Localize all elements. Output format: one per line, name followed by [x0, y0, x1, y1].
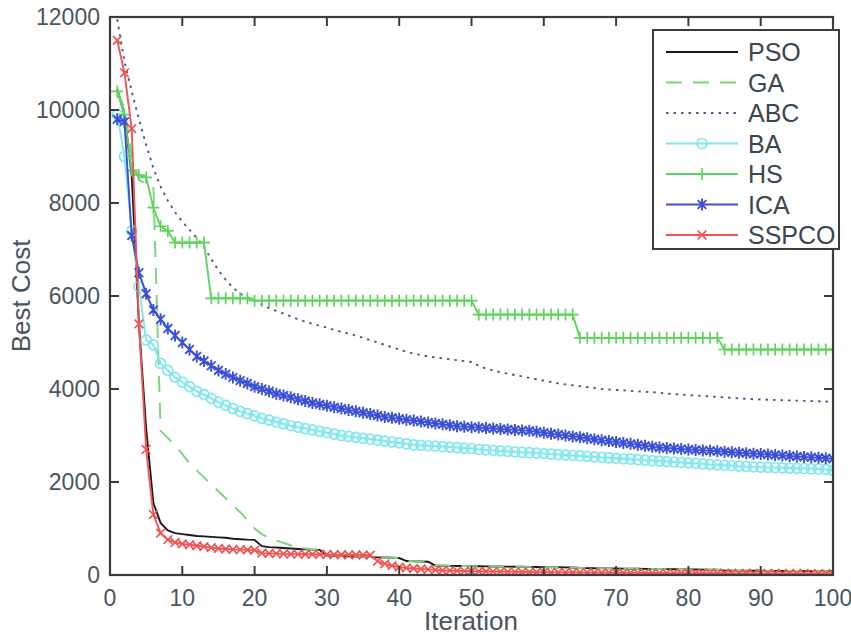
- legend-label-abc: ABC: [748, 99, 799, 127]
- y-tick-label: 2000: [49, 469, 100, 495]
- legend-label-hs: HS: [748, 160, 783, 188]
- legend-box: [653, 30, 839, 249]
- y-axis-label: Best Cost: [6, 239, 36, 352]
- x-tick-label: 30: [314, 585, 340, 611]
- x-tick-label: 100: [814, 585, 851, 611]
- legend-label-ba: BA: [748, 130, 782, 158]
- legend-label-pso: PSO: [748, 38, 801, 66]
- chart-legend: PSOGAABCBAHSICASSPCO: [653, 30, 839, 249]
- legend-label-ica: ICA: [748, 191, 790, 219]
- x-tick-label: 20: [242, 585, 268, 611]
- x-tick-label: 90: [748, 585, 774, 611]
- x-tick-label: 70: [603, 585, 629, 611]
- y-tick-label: 4000: [49, 376, 100, 402]
- y-tick-label: 6000: [49, 283, 100, 309]
- y-tick-label: 12000: [36, 4, 100, 30]
- legend-label-ga: GA: [748, 69, 784, 97]
- legend-label-sspco: SSPCO: [748, 221, 836, 249]
- x-tick-label: 40: [386, 585, 412, 611]
- chart-svg: 0102030405060708090100020004000600080001…: [0, 0, 851, 640]
- x-tick-label: 80: [676, 585, 702, 611]
- y-tick-label: 10000: [36, 97, 100, 123]
- x-tick-label: 10: [170, 585, 196, 611]
- best-cost-convergence-chart: 0102030405060708090100020004000600080001…: [0, 0, 851, 640]
- y-tick-label: 0: [87, 562, 100, 588]
- x-tick-label: 60: [531, 585, 557, 611]
- x-tick-label: 0: [104, 585, 117, 611]
- y-tick-label: 8000: [49, 190, 100, 216]
- x-axis-label: Iteration: [424, 606, 518, 636]
